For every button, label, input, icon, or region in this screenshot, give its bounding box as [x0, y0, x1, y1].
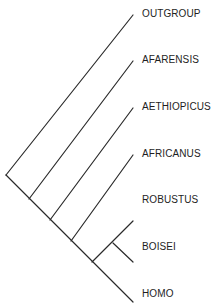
taxon-label-outgroup: OUTGROUP — [142, 8, 201, 20]
taxon-label-africanus: AFRICANUS — [142, 148, 201, 160]
taxon-label-aethiopicus: AETHIOPICUS — [142, 101, 211, 113]
branch-africanus — [71, 155, 133, 241]
branch-aethiopicus — [50, 108, 133, 220]
taxon-label-robustus: ROBUSTUS — [142, 194, 198, 206]
taxon-label-homo: HOMO — [142, 288, 174, 300]
taxon-label-boisei: BOISEI — [142, 241, 176, 253]
branch-boisei — [113, 243, 133, 262]
taxon-label-afarensis: AFARENSIS — [142, 54, 199, 66]
branch-lines — [6, 15, 133, 302]
branch-outgroup — [6, 15, 133, 175]
